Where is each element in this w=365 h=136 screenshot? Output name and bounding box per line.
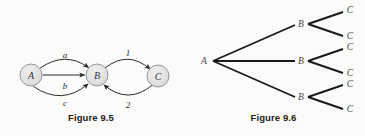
tree-node-b1-label: B — [298, 19, 304, 29]
figure-9-6: A B B B C C C C C C Figure 9.6 — [182, 0, 365, 136]
node-b-label: B — [94, 70, 100, 81]
edge-label-1: 1 — [126, 48, 131, 58]
tree-edge-b2-c4 — [308, 61, 343, 73]
edge-c-ab — [34, 84, 89, 96]
edge-label-c: c — [63, 98, 67, 108]
tree-node-c5-label: C — [347, 79, 354, 89]
tree-edge-b1-c2 — [308, 24, 343, 36]
tree-node-c4-label: C — [347, 68, 354, 78]
edge-1-bc — [105, 59, 150, 69]
figure-page: A B C a b c 1 2 Figure 9.5 — [0, 0, 365, 136]
tree-node-c3-label: C — [347, 42, 354, 52]
edge-label-a: a — [63, 50, 68, 60]
tree-node-b3-label: B — [298, 92, 304, 102]
edge-label-2: 2 — [126, 100, 131, 110]
tree-edge-b3-c5 — [308, 85, 343, 97]
node-a-label: A — [27, 70, 35, 81]
figure-9-5-caption: Figure 9.5 — [0, 112, 182, 123]
tree-edge-b3-c6 — [308, 97, 343, 109]
tree-edge-a-b3 — [213, 61, 295, 97]
tree-node-c2-label: C — [347, 31, 354, 41]
node-c-label: C — [155, 71, 162, 82]
tree-node-b2-label: B — [298, 56, 304, 66]
edge-a-ab — [40, 59, 89, 68]
tree-edge-a-b1 — [213, 25, 295, 61]
edge-2-cb — [104, 85, 153, 95]
tree-node-a-label: A — [200, 56, 207, 66]
edge-label-b: b — [63, 81, 68, 91]
figure-9-6-caption: Figure 9.6 — [182, 112, 365, 123]
tree-edge-b1-c1 — [308, 12, 343, 24]
tree-edge-b2-c3 — [308, 49, 343, 61]
tree-node-c1-label: C — [347, 5, 354, 15]
figure-9-5: A B C a b c 1 2 Figure 9.5 — [0, 0, 182, 136]
